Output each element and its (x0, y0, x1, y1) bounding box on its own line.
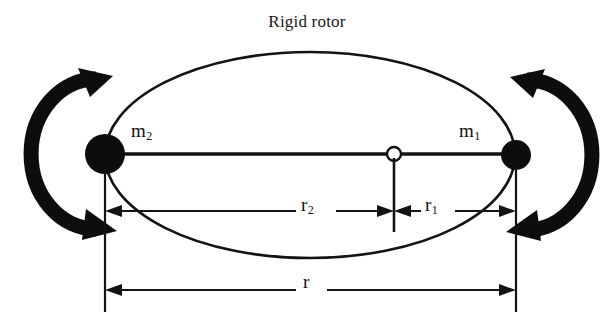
label-mass-m1-base: m (459, 120, 474, 141)
mass-marker-m1 (501, 140, 531, 170)
label-mass-m2: m2 (131, 120, 152, 144)
rigid-rotor-figure: Rigid rotor (0, 0, 614, 336)
label-distance-r2-subscript: 2 (308, 203, 314, 217)
dimension-r1 (394, 205, 516, 217)
dimension-r-total (105, 284, 516, 296)
label-distance-r2-base: r (301, 194, 307, 215)
label-mass-m2-subscript: 2 (146, 129, 152, 143)
label-mass-m2-base: m (131, 120, 146, 141)
label-distance-r1-base: r (425, 194, 431, 215)
label-distance-r2: r2 (301, 194, 314, 218)
label-distance-r: r (303, 271, 309, 293)
label-distance-r1-subscript: 1 (432, 203, 438, 217)
label-mass-m1: m1 (459, 120, 480, 144)
dimension-r2 (105, 205, 394, 217)
label-distance-r1: r1 (425, 194, 438, 218)
label-mass-m1-subscript: 1 (474, 129, 480, 143)
